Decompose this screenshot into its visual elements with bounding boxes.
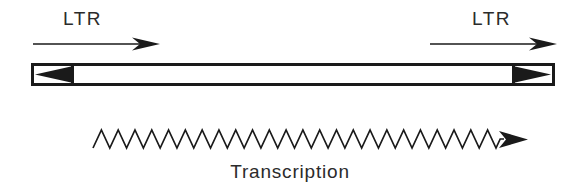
ltr-orientation-arrow-left-group [33, 38, 160, 51]
rna-transcript-zigzag-group [93, 130, 528, 148]
rna-transcript-zigzag [93, 130, 504, 148]
ltr-orientation-arrow-right-group [430, 38, 557, 51]
ltr-box-right [514, 65, 554, 85]
retroviral-provirus-diagram: LTR LTR Transcription [0, 0, 580, 196]
transcription-caption: Transcription [0, 162, 580, 181]
provirus-genome-bar [33, 65, 554, 85]
ltr-box-left [33, 65, 73, 85]
